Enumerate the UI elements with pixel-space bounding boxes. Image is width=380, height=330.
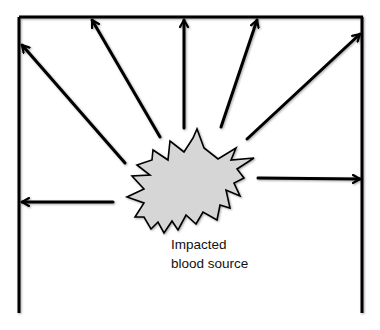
source-label-line1: Impacted — [171, 238, 227, 252]
arrow-upper-right-corner-icon — [247, 34, 360, 139]
arrow-right-wall-icon — [258, 178, 360, 179]
arrow-top-left-icon — [92, 20, 160, 137]
arrow-upper-left-wall-icon — [22, 45, 125, 163]
source-label-line2: blood source — [171, 257, 248, 271]
blood-source-burst-icon — [127, 129, 254, 233]
arrow-top-right-icon — [221, 20, 257, 127]
spatter-diagram — [0, 0, 380, 330]
